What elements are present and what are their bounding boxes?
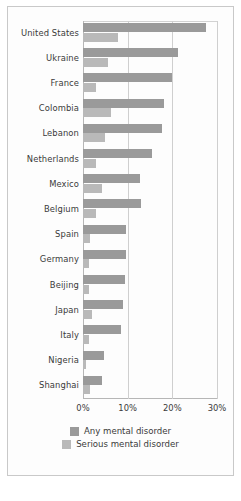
bar-group [83, 223, 217, 248]
bar-serious [83, 285, 89, 294]
bar-group [83, 349, 217, 374]
bar-serious [83, 209, 96, 218]
category-label: Netherlands [7, 154, 79, 164]
category-label: Mexico [7, 179, 79, 189]
bar-serious [83, 360, 86, 369]
bar-group [83, 21, 217, 46]
bar-serious [83, 33, 118, 42]
bar-any [83, 351, 104, 360]
bar-any [83, 48, 178, 57]
bar-serious [83, 159, 96, 168]
bar-serious [83, 133, 105, 142]
category-axis-labels: United StatesUkraineFranceColombiaLebano… [8, 21, 79, 399]
bar-serious [83, 259, 89, 268]
legend-label: Any mental disorder [84, 426, 171, 436]
bar-serious [83, 385, 90, 394]
bar-any [83, 23, 206, 32]
category-label: Spain [7, 229, 79, 239]
category-label: Japan [7, 305, 79, 315]
plot-area [83, 21, 217, 399]
category-label: Shanghai [7, 380, 79, 390]
category-label: Germany [7, 254, 79, 264]
bar-serious [83, 184, 102, 193]
legend-swatch-icon [62, 440, 71, 449]
bar-any [83, 124, 162, 133]
bar-group [83, 248, 217, 273]
bar-serious [83, 335, 89, 344]
bar-serious [83, 58, 108, 67]
chart-legend: Any mental disorderSerious mental disord… [8, 426, 233, 449]
legend-swatch-icon [70, 427, 79, 436]
x-tick-label: 0% [76, 403, 89, 413]
bar-any [83, 275, 125, 284]
value-axis-labels: 0%10%20%30% [83, 403, 217, 417]
bar-group [83, 172, 217, 197]
bar-any [83, 250, 126, 259]
category-label: United States [7, 28, 79, 38]
category-label: Nigeria [7, 355, 79, 365]
bar-any [83, 376, 102, 385]
bar-serious [83, 310, 92, 319]
category-label: Beijing [7, 280, 79, 290]
x-tick-label: 10% [118, 403, 137, 413]
bar-any [83, 225, 126, 234]
bar-serious [83, 83, 96, 92]
bar-any [83, 149, 152, 158]
bar-any [83, 99, 164, 108]
category-label: Belgium [7, 204, 79, 214]
bar-any [83, 325, 121, 334]
category-label: France [7, 78, 79, 88]
bar-any [83, 174, 140, 183]
chart-figure: United StatesUkraineFranceColombiaLebano… [7, 6, 234, 476]
x-tick-label: 20% [163, 403, 182, 413]
bar-any [83, 199, 141, 208]
bar-group [83, 97, 217, 122]
bar-any [83, 73, 172, 82]
bar-serious [83, 234, 90, 243]
bar-group [83, 273, 217, 298]
bar-any [83, 300, 123, 309]
bar-group [83, 197, 217, 222]
bar-group [83, 374, 217, 399]
category-label: Italy [7, 330, 79, 340]
bar-group [83, 323, 217, 348]
legend-label: Serious mental disorder [76, 439, 179, 449]
category-label: Ukraine [7, 53, 79, 63]
category-label: Colombia [7, 103, 79, 113]
legend-item: Any mental disorder [70, 426, 171, 436]
bar-serious [83, 108, 111, 117]
legend-item: Serious mental disorder [62, 439, 179, 449]
bar-group [83, 122, 217, 147]
category-label: Lebanon [7, 128, 79, 138]
bar-group [83, 46, 217, 71]
gridline-30pct [217, 21, 218, 399]
bar-group [83, 71, 217, 96]
bar-group [83, 147, 217, 172]
bar-group [83, 298, 217, 323]
x-tick-label: 30% [208, 403, 227, 413]
